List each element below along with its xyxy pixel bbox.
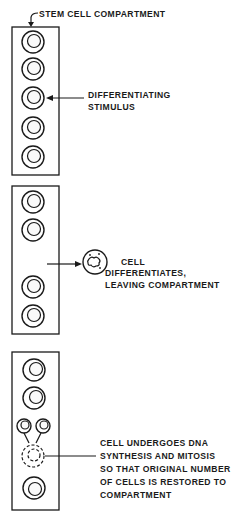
- differentiates-label-line2: DIFFERENTIATES,: [105, 268, 186, 278]
- daughter-cell-right: [36, 419, 50, 433]
- title-leader-line: [31, 13, 38, 17]
- mitosis-label-line1: CELL UNDERGOES DNA: [100, 438, 208, 448]
- mitosis-label-line5: COMPARTMENT: [100, 490, 172, 500]
- stimulus-label-line2: STIMULUS: [88, 102, 135, 112]
- stem-cell-diagram: STEM CELL COMPARTMENT DIFFERENTIATING ST…: [0, 0, 252, 517]
- stem-cell-stimulated: [22, 87, 44, 109]
- stem-cell: [22, 191, 44, 213]
- stem-cell: [22, 276, 44, 298]
- stem-cell: [22, 117, 44, 139]
- differentiates-label-line1: CELL: [121, 257, 145, 267]
- compartment-title: STEM CELL COMPARTMENT: [39, 9, 166, 19]
- stem-cell: [22, 146, 44, 168]
- panel-mitosis-restoration: CELL UNDERGOES DNA SYNTHESIS AND MITOSIS…: [12, 352, 231, 510]
- stem-cell: [22, 58, 44, 80]
- panel-stem-cell-compartment: STEM CELL COMPARTMENT DIFFERENTIATING ST…: [12, 9, 171, 175]
- stem-cell: [22, 305, 44, 327]
- stem-cell: [23, 359, 45, 381]
- exit-arrowhead: [75, 261, 82, 267]
- mitosis-label-line3: SO THAT ORIGINAL NUMBER: [100, 464, 231, 474]
- stem-cell: [22, 219, 44, 241]
- mitosis-label-line2: SYNTHESIS AND MITOSIS: [100, 451, 215, 461]
- panel-cell-differentiates: CELL DIFFERENTIATES, LEAVING COMPARTMENT: [12, 186, 220, 334]
- title-arrowhead: [28, 22, 34, 27]
- stem-cell: [23, 387, 45, 409]
- differentiates-label-line3: LEAVING COMPARTMENT: [105, 280, 220, 290]
- stem-cell: [23, 477, 45, 499]
- mitosis-label-line4: OF CELLS IS RESTORED TO: [100, 477, 226, 487]
- differentiated-cell: [83, 250, 107, 274]
- stimulus-label-line1: DIFFERENTIATING: [88, 90, 171, 100]
- stem-cell: [22, 31, 44, 53]
- daughter-cell-left: [17, 419, 31, 433]
